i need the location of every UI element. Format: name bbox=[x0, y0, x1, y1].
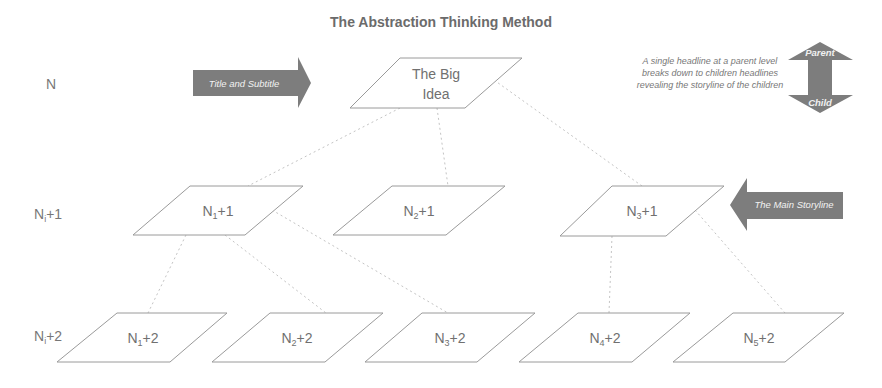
link-root-n1 bbox=[248, 108, 400, 186]
svg-text:Child: Child bbox=[808, 97, 832, 108]
link-root-n2 bbox=[437, 108, 448, 186]
node-n5-plus-2[interactable]: N5+2 bbox=[673, 313, 844, 362]
node-n2-plus-2[interactable]: N2+2 bbox=[212, 313, 383, 362]
title-subtitle-arrow: Title and Subtitle bbox=[193, 57, 311, 108]
svg-text:N5+2: N5+2 bbox=[743, 330, 774, 348]
node-n3-plus-2[interactable]: N3+2 bbox=[365, 313, 535, 362]
level-label-n-plus-1: Ni+1 bbox=[34, 206, 62, 224]
node-n1-plus-1[interactable]: N1+1 bbox=[133, 186, 303, 235]
level-label-n: N bbox=[46, 76, 56, 92]
diagram-title: The Abstraction Thinking Method bbox=[330, 14, 552, 30]
svg-text:N3+1: N3+1 bbox=[626, 203, 657, 221]
node-n4-plus-2[interactable]: N4+2 bbox=[519, 313, 690, 362]
svg-text:N2+2: N2+2 bbox=[281, 330, 312, 348]
link-n3-n5-2 bbox=[695, 210, 785, 313]
node-n2-plus-1[interactable]: N2+1 bbox=[333, 186, 505, 235]
link-root-n3 bbox=[494, 80, 642, 186]
link-n1-n2-2 bbox=[225, 235, 326, 313]
svg-text:N1+2: N1+2 bbox=[127, 330, 158, 348]
svg-text:N1+1: N1+1 bbox=[202, 203, 233, 221]
svg-text:The Main Storyline: The Main Storyline bbox=[754, 199, 833, 210]
node-n1-plus-2[interactable]: N1+2 bbox=[57, 313, 227, 362]
svg-text:breaks down to children headli: breaks down to children headlines bbox=[642, 68, 779, 78]
svg-text:Parent: Parent bbox=[805, 47, 835, 58]
abstraction-diagram: The Abstraction Thinking Method N Ni+1 N… bbox=[0, 0, 882, 388]
link-n1-n1-2 bbox=[148, 235, 186, 313]
svg-text:N2+1: N2+1 bbox=[403, 203, 434, 221]
link-n3-n4-2 bbox=[609, 236, 612, 313]
level-label-n-plus-2: Ni+2 bbox=[34, 328, 62, 346]
main-storyline-arrow: The Main Storyline bbox=[730, 178, 843, 231]
node-big-idea[interactable]: The Big Idea bbox=[350, 58, 522, 108]
svg-text:A single headline at a parent: A single headline at a parent level bbox=[642, 56, 779, 66]
svg-text:N4+2: N4+2 bbox=[589, 330, 620, 348]
svg-text:revealing the storyline of the: revealing the storyline of the children bbox=[637, 80, 784, 90]
svg-text:The Big: The Big bbox=[412, 66, 460, 82]
svg-text:N3+2: N3+2 bbox=[434, 330, 465, 348]
parent-child-arrow: Parent Child bbox=[788, 42, 853, 113]
explanation-note: A single headline at a parent level brea… bbox=[637, 56, 784, 90]
node-n3-plus-1[interactable]: N3+1 bbox=[560, 186, 724, 236]
svg-text:Idea: Idea bbox=[422, 86, 449, 102]
svg-text:Title and Subtitle: Title and Subtitle bbox=[209, 78, 280, 89]
